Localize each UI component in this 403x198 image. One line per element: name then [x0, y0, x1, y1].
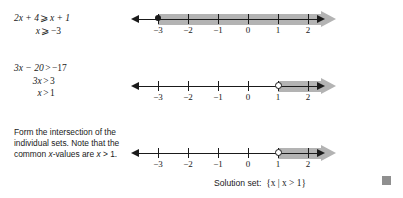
- step-rhs: −3: [51, 26, 61, 36]
- endpoint-marker-open: [275, 82, 282, 89]
- solution-set-caption: Solution set:{x | x > 1}: [214, 178, 306, 188]
- axis-rule: [133, 19, 322, 21]
- step-lhs: 3x − 20: [14, 63, 44, 73]
- axis-tick: [218, 81, 220, 91]
- inequality-steps-second: 3x − 20>−17 3x>3 x>1: [14, 62, 67, 100]
- axis-tick-label: −1: [208, 92, 228, 102]
- step-relation: >: [42, 76, 50, 86]
- axis-tick: [308, 14, 310, 24]
- axis-tick: [248, 148, 250, 158]
- axis-tick-label: −3: [148, 159, 168, 169]
- note-text-tail: > 1.: [101, 149, 118, 159]
- axis-tick-label: −1: [208, 159, 228, 169]
- step-line: 2x + 4⩾x + 1: [14, 12, 70, 25]
- number-line-second: −3 −2 −1 0 1 2: [131, 77, 345, 111]
- axis-tick: [278, 14, 280, 24]
- axis-tick-label: 2: [298, 25, 318, 35]
- axis-arrow-right-icon: [317, 149, 325, 157]
- axis-tick: [308, 148, 310, 158]
- axis-tick-label: 1: [268, 92, 288, 102]
- axis-tick-label: −2: [178, 159, 198, 169]
- axis-tick-label: 0: [238, 92, 258, 102]
- axis-tick-label: −3: [148, 25, 168, 35]
- axis-tick-label: −2: [178, 25, 198, 35]
- end-of-section-square-icon: [382, 176, 391, 185]
- step-relation: ⩾: [40, 26, 51, 36]
- step-line: x⩾−3: [14, 25, 70, 38]
- axis-tick-label: 1: [268, 25, 288, 35]
- axis-tick-label: −2: [178, 92, 198, 102]
- axis-arrow-left-icon: [131, 149, 139, 157]
- axis-tick: [218, 148, 220, 158]
- axis-tick: [248, 81, 250, 91]
- axis-arrow-left-icon: [131, 15, 139, 23]
- step-relation: ⩾: [39, 13, 50, 23]
- inequality-steps-first: 2x + 4⩾x + 1 x⩾−3: [14, 12, 70, 37]
- step-relation: >: [44, 63, 52, 73]
- step-lhs: 2x + 4: [14, 13, 39, 23]
- axis-arrow-right-icon: [317, 82, 325, 90]
- axis-tick: [188, 81, 190, 91]
- step-lhs: 3x: [33, 76, 42, 86]
- note-text-mid: -values are: [53, 149, 97, 159]
- step-rhs: x + 1: [50, 13, 70, 23]
- number-line-intersection: −3 −2 −1 0 1 2: [131, 144, 345, 178]
- axis-tick: [188, 148, 190, 158]
- number-line-first: −3 −2 −1 0 1 2: [131, 10, 345, 44]
- step-relation: >: [42, 88, 50, 98]
- axis-tick: [188, 14, 190, 24]
- axis-tick-label: −1: [208, 25, 228, 35]
- axis-arrow-right-icon: [317, 15, 325, 23]
- axis-tick-label: −3: [148, 92, 168, 102]
- axis-tick-label: 2: [298, 159, 318, 169]
- step-line: 3x − 20>−17: [14, 62, 67, 75]
- solution-set-notation: {x | x > 1}: [261, 178, 306, 188]
- axis-tick-label: 0: [238, 25, 258, 35]
- step-line: 3x>3: [14, 75, 67, 88]
- step-line: x>1: [14, 87, 67, 100]
- intersection-note: Form the intersection of the individual …: [14, 127, 126, 161]
- step-rhs: 3: [50, 76, 55, 86]
- axis-tick: [218, 14, 220, 24]
- axis-tick: [308, 81, 310, 91]
- figure-canvas: 2x + 4⩾x + 1 x⩾−3 3x − 20>−17 3x>3 x>1 F…: [0, 0, 403, 198]
- step-rhs: 1: [50, 88, 55, 98]
- solution-set-label: Solution set:: [214, 178, 261, 188]
- axis-tick-label: 1: [268, 159, 288, 169]
- axis-tick-label: 2: [298, 92, 318, 102]
- step-rhs: −17: [52, 63, 67, 73]
- axis-tick: [158, 148, 160, 158]
- axis-tick: [158, 81, 160, 91]
- axis-tick-label: 0: [238, 159, 258, 169]
- axis-rule: [133, 86, 322, 88]
- axis-arrow-left-icon: [131, 82, 139, 90]
- axis-rule: [133, 153, 322, 155]
- endpoint-marker-open: [275, 149, 282, 156]
- axis-tick: [248, 14, 250, 24]
